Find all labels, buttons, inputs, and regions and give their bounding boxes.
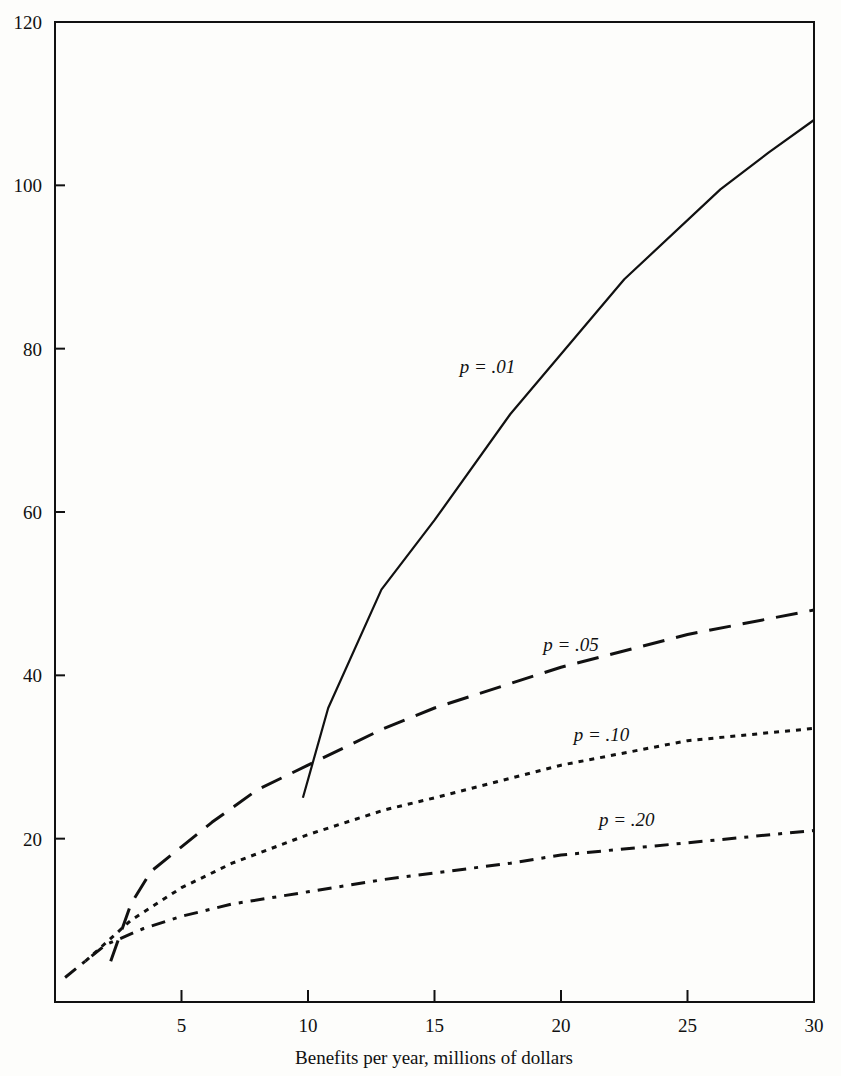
series-label-p05: p = .05: [541, 634, 599, 655]
series-label-p01: p = .01: [458, 356, 516, 377]
x-tick-label: 10: [299, 1015, 318, 1036]
y-axis: 20406080100120: [14, 12, 66, 850]
series-line-10: [85, 728, 814, 961]
line-chart: 20406080100120 51015202530 p = .01 p = .…: [0, 0, 841, 1076]
y-tick-label: 20: [23, 829, 42, 850]
x-tick-label: 25: [678, 1015, 697, 1036]
y-tick-label: 40: [23, 665, 42, 686]
x-tick-label: 30: [805, 1015, 824, 1036]
y-tick-label: 60: [23, 502, 42, 523]
series-line-20: [65, 831, 814, 978]
x-tick-label: 15: [425, 1015, 444, 1036]
x-axis: 51015202530: [177, 990, 824, 1036]
y-tick-label: 120: [14, 12, 43, 33]
series-line-05: [111, 610, 814, 961]
x-tick-label: 5: [177, 1015, 187, 1036]
x-axis-title: Benefits per year, millions of dollars: [295, 1047, 573, 1068]
plot-frame: [55, 22, 814, 1002]
y-tick-label: 80: [23, 339, 42, 360]
series-line-01: [303, 120, 814, 798]
series-label-p10: p = .10: [572, 724, 630, 745]
series-group: [65, 120, 814, 978]
series-label-p20: p = .20: [597, 809, 655, 830]
x-tick-label: 20: [552, 1015, 571, 1036]
y-tick-label: 100: [14, 175, 43, 196]
